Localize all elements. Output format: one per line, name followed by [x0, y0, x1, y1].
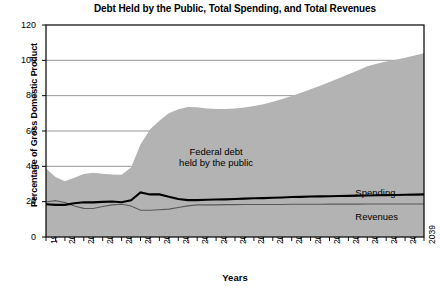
spending-label: Spending — [355, 188, 395, 198]
federal-debt-annotation-line1: Federal debt — [161, 146, 271, 157]
federal-debt-annotation: Federal debt held by the public — [161, 146, 271, 168]
federal-debt-annotation-line2: held by the public — [161, 157, 271, 168]
plot-area — [0, 0, 440, 290]
x-axis-label: Years — [46, 272, 424, 283]
area-federal-debt — [46, 53, 424, 237]
revenues-label: Revenues — [355, 212, 398, 222]
chart-figure: Debt Held by the Public, Total Spending,… — [0, 0, 440, 290]
